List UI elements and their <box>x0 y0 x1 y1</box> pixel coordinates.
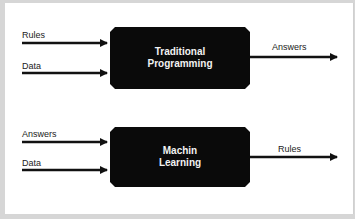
bottom-input-label-answers: Answers <box>22 129 57 139</box>
traditional-programming-box: Traditional Programming <box>110 27 250 89</box>
machine-learning-box: Machin Learning <box>110 127 250 187</box>
bottom-box-line1: Machin <box>159 145 201 157</box>
top-box-line1: Traditional <box>147 46 212 58</box>
top-input-label-data: Data <box>22 61 41 71</box>
bottom-output-label-rules: Rules <box>278 144 301 154</box>
bottom-box-line2: Learning <box>159 157 201 169</box>
bottom-input-label-data: Data <box>22 158 41 168</box>
top-input-label-rules: Rules <box>22 30 45 40</box>
top-output-label-answers: Answers <box>272 42 307 52</box>
top-box-line2: Programming <box>147 58 212 70</box>
